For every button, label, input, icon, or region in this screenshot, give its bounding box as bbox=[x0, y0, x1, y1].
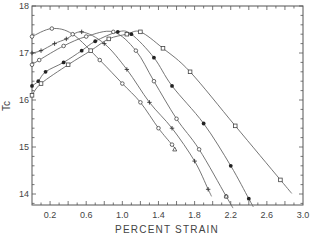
marker-open-circle bbox=[30, 63, 34, 67]
marker-open-circle bbox=[62, 44, 66, 48]
marker-filled-circle bbox=[44, 70, 48, 74]
marker-open-circle bbox=[30, 35, 34, 39]
marker-filled-circle bbox=[170, 84, 174, 88]
marker-open-square bbox=[161, 47, 165, 51]
marker-filled-circle bbox=[129, 32, 133, 36]
marker-open-triangle bbox=[173, 147, 177, 151]
marker-open-circle bbox=[121, 82, 125, 86]
marker-filled-circle bbox=[116, 30, 120, 34]
marker-open-square bbox=[125, 32, 129, 36]
x-tick-label: 1.8 bbox=[188, 210, 201, 220]
marker-open-square bbox=[188, 70, 192, 74]
y-axis-label: Tc bbox=[1, 101, 12, 111]
curve-open-square bbox=[32, 31, 292, 193]
marker-open-circle bbox=[50, 27, 54, 31]
chart-canvas: 0.20.61.01.41.82.22.63.01415161718 PERCE… bbox=[0, 0, 317, 239]
marker-open-square bbox=[233, 124, 237, 128]
marker-open-circle bbox=[197, 148, 201, 152]
data-markers bbox=[30, 27, 282, 201]
marker-filled-circle bbox=[93, 39, 97, 43]
y-tick-label: 17 bbox=[19, 48, 29, 58]
marker-filled-circle bbox=[247, 197, 251, 201]
marker-open-circle bbox=[157, 126, 161, 130]
curve-open-circle-2 bbox=[32, 31, 233, 208]
y-tick-label: 18 bbox=[19, 1, 29, 11]
marker-filled-circle bbox=[80, 49, 84, 53]
y-tick-label: 15 bbox=[19, 142, 29, 152]
marker-open-square bbox=[107, 37, 111, 41]
marker-open-circle bbox=[175, 117, 179, 121]
x-tick-label: 2.2 bbox=[224, 210, 237, 220]
strain-tc-chart: 0.20.61.01.41.82.22.63.01415161718 PERCE… bbox=[0, 0, 317, 239]
curve-filled-circle bbox=[32, 31, 253, 207]
data-curves bbox=[32, 28, 292, 208]
marker-open-circle bbox=[170, 143, 174, 147]
marker-filled-circle bbox=[229, 164, 233, 168]
marker-open-circle bbox=[152, 79, 156, 83]
x-axis-label: PERCENT STRAIN bbox=[115, 224, 219, 235]
marker-open-circle bbox=[134, 49, 138, 53]
x-tick-label: 3.0 bbox=[297, 210, 310, 220]
marker-open-circle bbox=[37, 58, 41, 62]
marker-open-square bbox=[139, 30, 143, 34]
marker-filled-circle bbox=[152, 56, 156, 60]
marker-open-square bbox=[39, 82, 43, 86]
y-tick-label: 16 bbox=[19, 95, 29, 105]
curve-plus bbox=[32, 32, 212, 197]
marker-filled-circle bbox=[62, 61, 66, 65]
marker-open-square bbox=[66, 63, 70, 67]
y-tick-label: 14 bbox=[19, 189, 29, 199]
curve-open-circle-1 bbox=[32, 28, 175, 148]
marker-open-circle bbox=[112, 30, 116, 34]
x-tick-label: 1.4 bbox=[152, 210, 165, 220]
marker-open-square bbox=[279, 178, 283, 182]
x-tick-label: 0.6 bbox=[80, 210, 93, 220]
marker-open-circle bbox=[84, 35, 88, 39]
x-tick-label: 2.6 bbox=[261, 210, 274, 220]
marker-filled-circle bbox=[30, 84, 34, 88]
marker-open-square bbox=[89, 49, 93, 53]
marker-open-circle bbox=[139, 101, 143, 105]
axis-tick-labels: 0.20.61.01.41.82.22.63.01415161718 bbox=[19, 1, 309, 220]
x-tick-label: 0.2 bbox=[44, 210, 57, 220]
marker-open-circle bbox=[71, 32, 75, 36]
marker-filled-circle bbox=[202, 122, 206, 126]
marker-open-square bbox=[30, 94, 34, 98]
x-tick-label: 1.0 bbox=[116, 210, 129, 220]
marker-open-circle bbox=[98, 58, 102, 62]
